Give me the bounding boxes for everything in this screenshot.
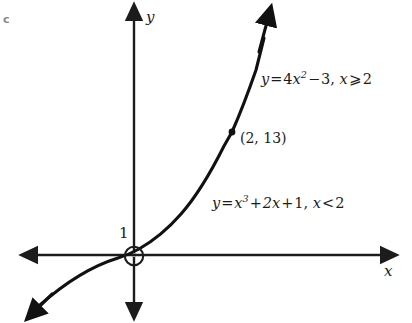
curve-cubic-branch bbox=[40, 132, 232, 305]
eq-upper-minus: − bbox=[307, 71, 321, 87]
graph-svg bbox=[0, 0, 412, 323]
eq-upper-equals: = bbox=[269, 71, 283, 87]
eq-lower-domain-value: 2 bbox=[335, 195, 344, 211]
eq-lower-term-two: 2x bbox=[263, 195, 280, 211]
eq-lower-plus-two: + bbox=[280, 195, 294, 211]
y-intercept-tick-label: 1 bbox=[119, 226, 129, 241]
eq-lower-comma: , bbox=[304, 195, 309, 211]
eq-upper-lhs: y bbox=[261, 71, 269, 87]
eq-lower-plus-one: + bbox=[249, 195, 263, 211]
y-axis-label: y bbox=[146, 10, 154, 25]
eq-upper-base: x bbox=[293, 71, 301, 87]
eq-upper-domain-value: 2 bbox=[363, 71, 372, 87]
curve-cubic-arrow bbox=[38, 294, 52, 308]
eq-lower-domain-relation: < bbox=[321, 195, 335, 211]
eq-lower-domain-var: x bbox=[313, 195, 321, 211]
part-label: c bbox=[3, 14, 10, 25]
point-marker-2-13 bbox=[229, 129, 236, 136]
x-axis-label: x bbox=[384, 264, 392, 279]
eq-lower-base: x bbox=[234, 195, 242, 211]
eq-upper-comma: , bbox=[330, 71, 335, 87]
eq-lower-lhs: y bbox=[212, 195, 220, 211]
eq-upper-constant: 3 bbox=[321, 71, 330, 87]
eq-upper-domain-var: x bbox=[339, 71, 347, 87]
eq-upper-domain-relation: ⩾ bbox=[348, 71, 363, 87]
eq-lower-constant: 1 bbox=[294, 195, 303, 211]
eq-lower-equals: = bbox=[220, 195, 234, 211]
equation-lower-branch: y=x3+2x+1, x<2 bbox=[212, 196, 344, 211]
equation-upper-branch: y=4x2−3, x⩾2 bbox=[261, 72, 372, 87]
figure-container: c bbox=[0, 0, 412, 323]
eq-upper-coefficient: 4 bbox=[283, 71, 292, 87]
eq-upper-exponent: 2 bbox=[301, 69, 307, 80]
eq-lower-exponent: 3 bbox=[243, 193, 249, 204]
point-coordinate-label: (2, 13) bbox=[240, 131, 287, 145]
